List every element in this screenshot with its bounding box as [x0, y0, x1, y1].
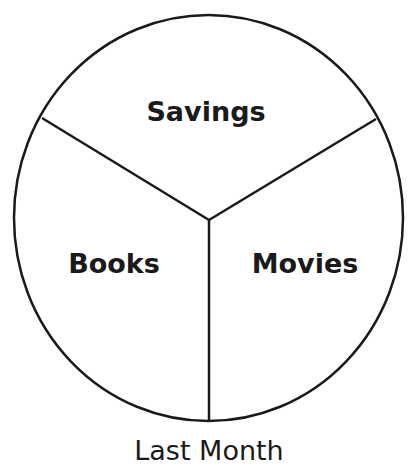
pie-chart: Savings Books Movies Last Month [0, 0, 409, 465]
chart-title: Last Month [134, 435, 283, 465]
slice-label-movies: Movies [252, 248, 359, 279]
slice-label-savings: Savings [146, 96, 265, 127]
slice-label-books: Books [68, 248, 160, 279]
